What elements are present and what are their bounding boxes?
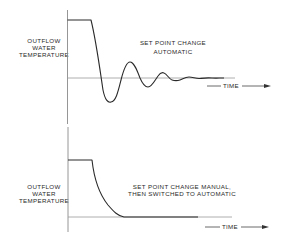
bottom-ylabel-line-3: TEMPERATURE xyxy=(19,197,69,204)
top-ylabel-line-2: WATER xyxy=(32,44,56,51)
control-response-diagram: OUTFLOW WATER TEMPERATURE SET POINT CHAN… xyxy=(0,0,285,247)
bottom-time-arrowhead-icon xyxy=(262,225,269,229)
top-response-curve xyxy=(68,20,225,102)
top-time-label: TIME xyxy=(223,82,239,89)
top-panel: OUTFLOW WATER TEMPERATURE SET POINT CHAN… xyxy=(19,10,271,124)
bottom-ylabel-line-2: WATER xyxy=(32,190,56,197)
top-title-line-1: SET POINT CHANGE xyxy=(140,39,206,46)
top-time-arrowhead-icon xyxy=(264,84,271,88)
bottom-title-line-2: THEN SWITCHED TO AUTOMATIC xyxy=(128,190,236,197)
top-ylabel-line-3: TEMPERATURE xyxy=(19,51,69,58)
top-ylabel-line-1: OUTFLOW xyxy=(27,37,60,44)
bottom-ylabel-line-1: OUTFLOW xyxy=(27,183,60,190)
top-title-line-2: AUTOMATIC xyxy=(153,48,192,55)
bottom-title-line-1: SET POINT CHANGE MANUAL, xyxy=(133,183,231,190)
bottom-time-label: TIME xyxy=(222,223,238,230)
bottom-panel: OUTFLOW WATER TEMPERATURE SET POINT CHAN… xyxy=(19,127,269,232)
